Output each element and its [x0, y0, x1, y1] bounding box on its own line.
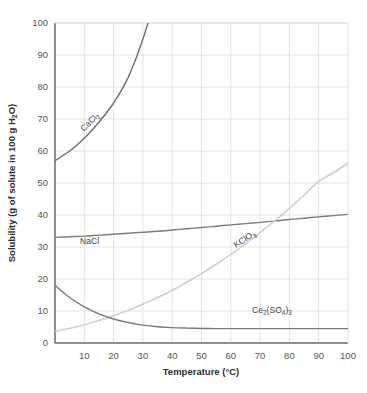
y-tick-100: 100: [32, 17, 48, 28]
x-tick-20: 20: [108, 350, 119, 361]
x-tick-60: 60: [226, 350, 237, 361]
series-label-Ce2(SO4)3: Ce2(SO4)3: [252, 305, 292, 316]
x-tick-10: 10: [79, 350, 90, 361]
solubility-chart: 0102030405060708090100 10203040506070809…: [0, 0, 367, 393]
series-label-NaCl: NaCl: [80, 236, 99, 246]
x-axis-title-label: Temperature (°C): [163, 366, 239, 377]
x-tick-100: 100: [340, 350, 356, 361]
y-tick-80: 80: [37, 81, 48, 92]
x-tick-80: 80: [284, 350, 295, 361]
y-tick-0: 0: [43, 337, 48, 348]
y-axis-title: Solubility (g of solute in 100 g H2O): [6, 104, 18, 262]
x-axis-title: Temperature (°C): [163, 366, 239, 377]
y-axis-title-label: Solubility (g of solute in 100 g H2O): [6, 104, 18, 262]
y-tick-70: 70: [37, 113, 48, 124]
y-tick-60: 60: [37, 145, 48, 156]
y-tick-50: 50: [37, 177, 48, 188]
y-tick-20: 20: [37, 273, 48, 284]
x-tick-50: 50: [196, 350, 207, 361]
y-tick-10: 10: [37, 305, 48, 316]
chart-canvas: 0102030405060708090100 10203040506070809…: [0, 0, 367, 393]
y-tick-90: 90: [37, 49, 48, 60]
x-tick-90: 90: [313, 350, 324, 361]
x-tick-70: 70: [255, 350, 266, 361]
y-tick-30: 30: [37, 241, 48, 252]
x-tick-30: 30: [138, 350, 149, 361]
y-tick-40: 40: [37, 209, 48, 220]
x-tick-40: 40: [167, 350, 178, 361]
